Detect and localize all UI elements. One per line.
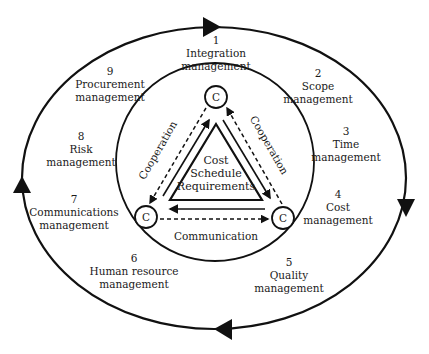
area-3-time: 3 Time management	[311, 125, 381, 163]
svg-text:1: 1	[213, 34, 220, 46]
svg-text:Risk: Risk	[69, 143, 93, 155]
cooperation-left-label: Cooperation	[136, 118, 179, 181]
area-7-communications: 7 Communications management	[29, 193, 118, 231]
area-8-risk: 8 Risk management	[46, 130, 116, 168]
area-9-procurement: 9 Procurement management	[75, 65, 145, 103]
svg-text:Communications: Communications	[29, 206, 118, 218]
svg-text:5: 5	[286, 256, 293, 268]
area-1-integration: 1 Integration management	[181, 34, 251, 72]
svg-text:management: management	[303, 214, 373, 226]
svg-text:management: management	[99, 278, 169, 290]
svg-text:Quality: Quality	[270, 269, 309, 281]
outer-arrow-bottom-icon	[214, 319, 232, 340]
svg-text:Time: Time	[333, 138, 360, 150]
area-5-quality: 5 Quality management	[254, 256, 324, 294]
svg-text:management: management	[75, 91, 145, 103]
svg-text:4: 4	[335, 188, 342, 200]
project-management-cycle-diagram: C C C Cost Schedule Requirements Coopera…	[0, 0, 429, 354]
svg-text:Cost: Cost	[326, 201, 351, 213]
svg-text:management: management	[311, 151, 381, 163]
svg-text:Scope: Scope	[302, 80, 334, 92]
center-cost-label: Cost	[203, 154, 229, 167]
svg-text:6: 6	[131, 252, 138, 264]
node-top-label: C	[212, 91, 220, 103]
area-2-scope: 2 Scope management	[283, 67, 353, 105]
svg-text:management: management	[181, 60, 251, 72]
outer-arrow-left-icon	[13, 176, 31, 193]
area-4-cost: 4 Cost management	[303, 188, 373, 226]
svg-text:Procurement: Procurement	[75, 78, 145, 90]
svg-text:Human resource: Human resource	[89, 265, 178, 277]
cooperation-right-label: Cooperation	[248, 114, 291, 177]
center-schedule-label: Schedule	[190, 167, 241, 180]
node-bottom-right: C	[272, 207, 294, 229]
communication-label: Communication	[174, 230, 258, 242]
node-bottom-left: C	[135, 206, 157, 228]
center-requirements-label: Requirements	[177, 180, 256, 193]
svg-text:Integration: Integration	[186, 47, 246, 59]
svg-text:3: 3	[343, 125, 350, 137]
svg-text:2: 2	[315, 67, 322, 79]
svg-text:management: management	[254, 282, 324, 294]
svg-text:8: 8	[78, 130, 85, 142]
svg-text:management: management	[39, 219, 109, 231]
node-bottom-left-label: C	[142, 211, 150, 223]
area-6-human-resource: 6 Human resource management	[89, 252, 178, 290]
node-bottom-right-label: C	[279, 212, 287, 224]
svg-text:management: management	[283, 93, 353, 105]
svg-text:9: 9	[107, 65, 114, 77]
svg-text:management: management	[46, 156, 116, 168]
svg-text:7: 7	[71, 193, 78, 205]
node-top: C	[205, 86, 227, 108]
